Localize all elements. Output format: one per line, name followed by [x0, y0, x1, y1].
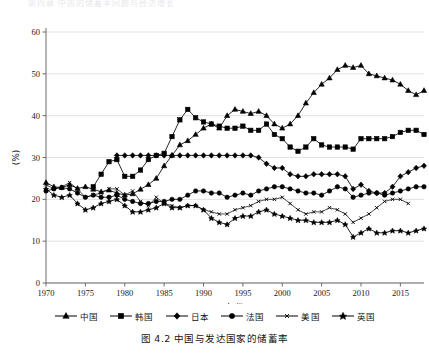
x-axis-tick-labels: 1970197519801985199019952000200520102015 — [38, 283, 409, 298]
svg-text:1985: 1985 — [156, 288, 173, 298]
svg-text:2015: 2015 — [392, 288, 409, 298]
plot-area: 0102030405060 19701975198019851990199520… — [0, 14, 429, 304]
legend-item-2[interactable]: 日本 — [165, 310, 209, 322]
svg-text:0: 0 — [36, 278, 40, 288]
legend-item-3[interactable]: 法国 — [220, 310, 264, 322]
triangle-marker-icon — [54, 311, 78, 321]
cross-marker-icon — [275, 311, 299, 321]
legend-label-2: 日本 — [191, 310, 209, 322]
diamond-marker-icon — [165, 311, 189, 321]
legend-label-3: 法国 — [246, 310, 264, 322]
series-日本 — [114, 153, 426, 196]
svg-text:50: 50 — [32, 69, 41, 79]
svg-text:1980: 1980 — [116, 288, 133, 298]
data-series-layer — [43, 63, 426, 240]
svg-text:1990: 1990 — [195, 288, 212, 298]
legend-item-4[interactable]: 美国 — [275, 310, 319, 322]
circle-marker-icon — [220, 311, 244, 321]
legend-label-1: 韩国 — [135, 310, 153, 322]
legend-item-1[interactable]: 韩国 — [109, 310, 153, 322]
svg-text:1970: 1970 — [38, 288, 55, 298]
square-marker-icon — [109, 311, 133, 321]
figure-container: 第四章 中国的储蓄率问题与经济增长 0102030405060 19701975… — [0, 0, 429, 353]
legend-label-5: 英国 — [357, 310, 375, 322]
legend-item-5[interactable]: 英国 — [331, 310, 375, 322]
svg-text:2010: 2010 — [353, 288, 370, 298]
series-韩国 — [91, 107, 426, 189]
legend-label-4: 美国 — [301, 310, 319, 322]
legend-label-0: 中国 — [80, 310, 98, 322]
svg-text:2000: 2000 — [274, 288, 291, 298]
svg-text:2005: 2005 — [313, 288, 330, 298]
star-marker-icon — [331, 311, 355, 321]
y-axis-tick-labels: 0102030405060 — [32, 27, 47, 288]
y-axis-title: (%) — [11, 150, 21, 166]
chart-legend: 中国韩国日本法国美国英国 — [0, 306, 429, 326]
svg-text:10: 10 — [32, 236, 41, 246]
svg-text:40: 40 — [32, 111, 41, 121]
page-header-remnant: 第四章 中国的储蓄率问题与经济增长 — [28, 0, 408, 7]
svg-text:60: 60 — [32, 27, 41, 37]
savings-rate-line-chart: 0102030405060 19701975198019851990199520… — [0, 14, 429, 304]
svg-text:20: 20 — [32, 194, 41, 204]
svg-text:30: 30 — [32, 153, 41, 163]
svg-text:1995: 1995 — [234, 288, 251, 298]
svg-text:1975: 1975 — [77, 288, 94, 298]
figure-caption: 图 4.2 中国与发达国家的储蓄率 — [0, 331, 429, 345]
x-axis-title: 年份 — [226, 302, 244, 304]
legend-item-0[interactable]: 中国 — [54, 310, 98, 322]
